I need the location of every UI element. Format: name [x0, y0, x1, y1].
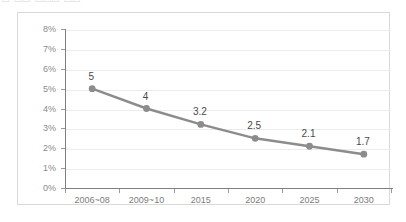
data-point-marker: [252, 135, 259, 142]
data-point-label: 4: [143, 91, 149, 102]
data-point-marker: [306, 143, 313, 150]
truncated-caption-strip: □ □□ □□□ □□: [0, 0, 406, 9]
data-point-marker: [143, 105, 150, 112]
series-polyline: [92, 89, 364, 155]
data-point-marker: [89, 85, 96, 92]
x-axis-tick: [391, 189, 392, 193]
truncated-caption-text: □ □□ □□□ □□: [0, 0, 406, 5]
data-point-label: 5: [88, 71, 94, 82]
data-point-label: 1.7: [356, 136, 370, 147]
data-point-label: 2.5: [247, 120, 261, 131]
data-point-label: 2.1: [302, 128, 316, 139]
series-markers: [89, 85, 367, 157]
data-point-marker: [360, 151, 367, 158]
data-point-marker: [197, 121, 204, 128]
data-point-label: 3.2: [193, 106, 207, 117]
chart-frame: 0%1%2%3%4%5%6%7%8% 2006~082009~102015202…: [17, 12, 390, 205]
